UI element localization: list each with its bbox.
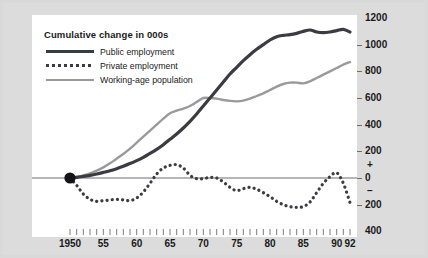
y-axis-sign-marker: – <box>367 186 373 196</box>
y-tick-mark <box>357 71 362 72</box>
x-tick-label: 55 <box>98 238 109 249</box>
y-tick-mark <box>357 125 362 126</box>
x-tick-label: 90 <box>331 238 342 249</box>
legend-label-working-age-population: Working-age population <box>100 75 193 85</box>
y-tick-label: 600 <box>365 93 382 103</box>
legend-label-public-employment: Public employment <box>100 47 174 57</box>
x-axis-minor-ticks <box>70 229 350 235</box>
legend-swatch-public-employment <box>44 46 94 57</box>
y-tick-label: 0 <box>365 173 371 183</box>
y-tick-label: 1000 <box>365 40 387 50</box>
x-tick-label: 85 <box>298 238 309 249</box>
legend-label-private-employment: Private employment <box>100 61 178 71</box>
legend-title: Cumulative change in 000s <box>44 29 244 40</box>
y-tick-mark <box>357 151 362 152</box>
y-tick-label: 1200 <box>365 13 387 23</box>
x-tick-label: 70 <box>198 238 209 249</box>
legend-item-public-employment: Public employment <box>44 45 244 58</box>
legend-item-private-employment: Private employment <box>44 59 244 72</box>
chart-figure: Cumulative change in 000s Public employm… <box>0 0 428 258</box>
y-tick-mark <box>357 178 362 179</box>
y-tick-mark <box>357 205 362 206</box>
y-axis-sign-marker: + <box>367 160 373 170</box>
y-tick-label: 200 <box>365 146 382 156</box>
legend-item-working-age-population: Working-age population <box>44 73 244 86</box>
x-tick-label: 92 <box>344 238 355 249</box>
chart-legend: Cumulative change in 000s Public employm… <box>44 29 244 87</box>
y-tick-mark <box>357 45 362 46</box>
legend-swatch-private-employment <box>44 60 94 71</box>
x-axis: 1950556065707580859092 <box>0 238 428 258</box>
x-tick-label: 60 <box>131 238 142 249</box>
y-axis: 120010008006004002000200400+– <box>365 0 423 258</box>
x-tick-label: 75 <box>231 238 242 249</box>
x-tick-label: 1950 <box>59 238 81 249</box>
origin-marker-dot <box>64 172 75 183</box>
y-tick-label: 400 <box>365 226 382 236</box>
x-tick-label: 80 <box>264 238 275 249</box>
plot-area: Cumulative change in 000s Public employm… <box>32 15 357 237</box>
x-tick-label: 65 <box>164 238 175 249</box>
y-tick-mark <box>357 98 362 99</box>
y-tick-label: 400 <box>365 120 382 130</box>
y-tick-label: 200 <box>365 200 382 210</box>
y-tick-label: 800 <box>365 66 382 76</box>
legend-swatch-working-age-population <box>44 74 94 85</box>
